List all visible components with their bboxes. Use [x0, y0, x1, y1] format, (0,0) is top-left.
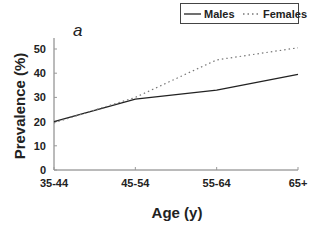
y-axis-title: Prevalence (%)	[11, 53, 28, 160]
x-tick-label: 65+	[289, 177, 308, 189]
panel-label: a	[73, 21, 82, 40]
y-tick-label: 10	[34, 140, 46, 152]
axes: 0102030405035-4445-5455-6465+	[34, 38, 308, 189]
line-chart: MalesFemales a 0102030405035-4445-5455-6…	[0, 0, 324, 237]
series-lines	[54, 48, 298, 123]
y-tick-label: 40	[34, 67, 46, 79]
legend-label-males: Males	[204, 8, 235, 20]
x-tick-label: 45-54	[121, 177, 150, 189]
y-tick-label: 20	[34, 116, 46, 128]
x-tick-label: 35-44	[40, 177, 69, 189]
y-tick-label: 30	[34, 91, 46, 103]
x-tick-label: 55-64	[203, 177, 232, 189]
legend-label-females: Females	[263, 8, 307, 20]
legend: MalesFemales	[181, 4, 308, 24]
y-tick-label: 0	[40, 164, 46, 176]
y-tick-label: 50	[34, 43, 46, 55]
x-axis-title: Age (y)	[152, 204, 203, 221]
series-males-line	[54, 74, 298, 121]
